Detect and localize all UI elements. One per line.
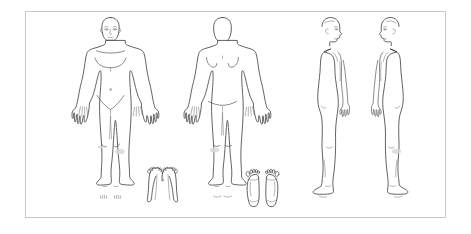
marking-lateral-left-knee [392,149,401,154]
feet-plantar[interactable] [245,169,279,207]
figure-anterior[interactable] [72,18,159,199]
body-chart-canvas [0,0,471,234]
body-chart-root: Human Body Chart Anatomical body chart l… [0,0,471,234]
figure-lateral-right[interactable] [313,18,349,198]
marking-anterior-thigh [98,146,103,149]
marking-anterior-knee [115,149,125,154]
marking-posterior-knee [210,148,219,153]
feet-dorsal[interactable] [147,167,177,202]
figure-lateral-left[interactable] [371,18,407,198]
